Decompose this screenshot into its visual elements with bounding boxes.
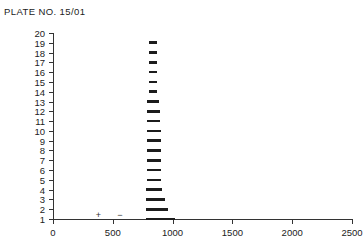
y-tick — [49, 209, 54, 210]
bar — [149, 90, 157, 93]
bar — [147, 110, 160, 113]
y-tick-label: 1 — [21, 214, 45, 225]
y-tick — [49, 53, 54, 54]
y-tick — [49, 33, 54, 34]
bar — [147, 169, 161, 172]
bar — [147, 120, 160, 123]
y-tick-label: 9 — [21, 135, 45, 146]
axis-annotation: + — [96, 211, 101, 220]
y-tick — [49, 111, 54, 112]
y-tick-label: 11 — [21, 116, 45, 127]
bar — [146, 208, 168, 211]
y-tick-label: 18 — [21, 47, 45, 58]
y-tick — [49, 82, 54, 83]
y-tick-label: 12 — [21, 106, 45, 117]
y-tick — [49, 150, 54, 151]
bar — [147, 149, 161, 152]
y-tick — [49, 131, 54, 132]
y-tick-label: 8 — [21, 145, 45, 156]
x-tick-label: 500 — [105, 227, 121, 238]
y-tick — [49, 160, 54, 161]
y-tick-label: 7 — [21, 155, 45, 166]
x-tick-label: 1500 — [222, 227, 243, 238]
y-tick-label: 15 — [21, 76, 45, 87]
bar-chart: 05001000150020002500 1234567891011121314… — [0, 0, 363, 250]
y-tick — [49, 141, 54, 142]
y-tick-label: 16 — [21, 67, 45, 78]
bar — [146, 218, 175, 221]
x-tick-label: 2000 — [282, 227, 303, 238]
y-tick — [49, 170, 54, 171]
y-tick — [49, 190, 54, 191]
y-tick-label: 14 — [21, 86, 45, 97]
y-tick-label: 19 — [21, 37, 45, 48]
y-tick-label: 17 — [21, 57, 45, 68]
bar — [146, 188, 163, 191]
bar — [147, 179, 161, 182]
bar — [149, 61, 157, 64]
bar — [149, 71, 157, 74]
x-tick — [292, 219, 293, 224]
y-tick — [49, 199, 54, 200]
x-tick-label: 1000 — [162, 227, 183, 238]
y-tick-label: 13 — [21, 96, 45, 107]
x-tick-label: 2500 — [341, 227, 362, 238]
bar — [146, 198, 165, 201]
y-tick-label: 4 — [21, 184, 45, 195]
bar — [149, 81, 157, 84]
x-tick-label: 0 — [50, 227, 55, 238]
y-tick — [49, 219, 54, 220]
y-tick — [49, 180, 54, 181]
bar — [147, 130, 161, 133]
y-tick-label: 5 — [21, 174, 45, 185]
x-tick — [113, 219, 114, 224]
bar — [147, 100, 160, 103]
y-axis-line — [53, 33, 54, 220]
bar — [147, 139, 161, 142]
bar — [149, 41, 157, 44]
x-tick — [352, 219, 353, 224]
y-tick-label: 2 — [21, 204, 45, 215]
y-tick-label: 6 — [21, 165, 45, 176]
bar — [149, 51, 157, 54]
y-tick-label: 20 — [21, 28, 45, 39]
y-tick — [49, 92, 54, 93]
y-tick — [49, 72, 54, 73]
y-tick — [49, 102, 54, 103]
y-tick — [49, 62, 54, 63]
y-tick-label: 10 — [21, 125, 45, 136]
bar — [147, 159, 161, 162]
axis-annotation: − — [117, 211, 122, 220]
y-tick-label: 3 — [21, 194, 45, 205]
y-tick — [49, 121, 54, 122]
y-tick — [49, 43, 54, 44]
x-tick — [232, 219, 233, 224]
